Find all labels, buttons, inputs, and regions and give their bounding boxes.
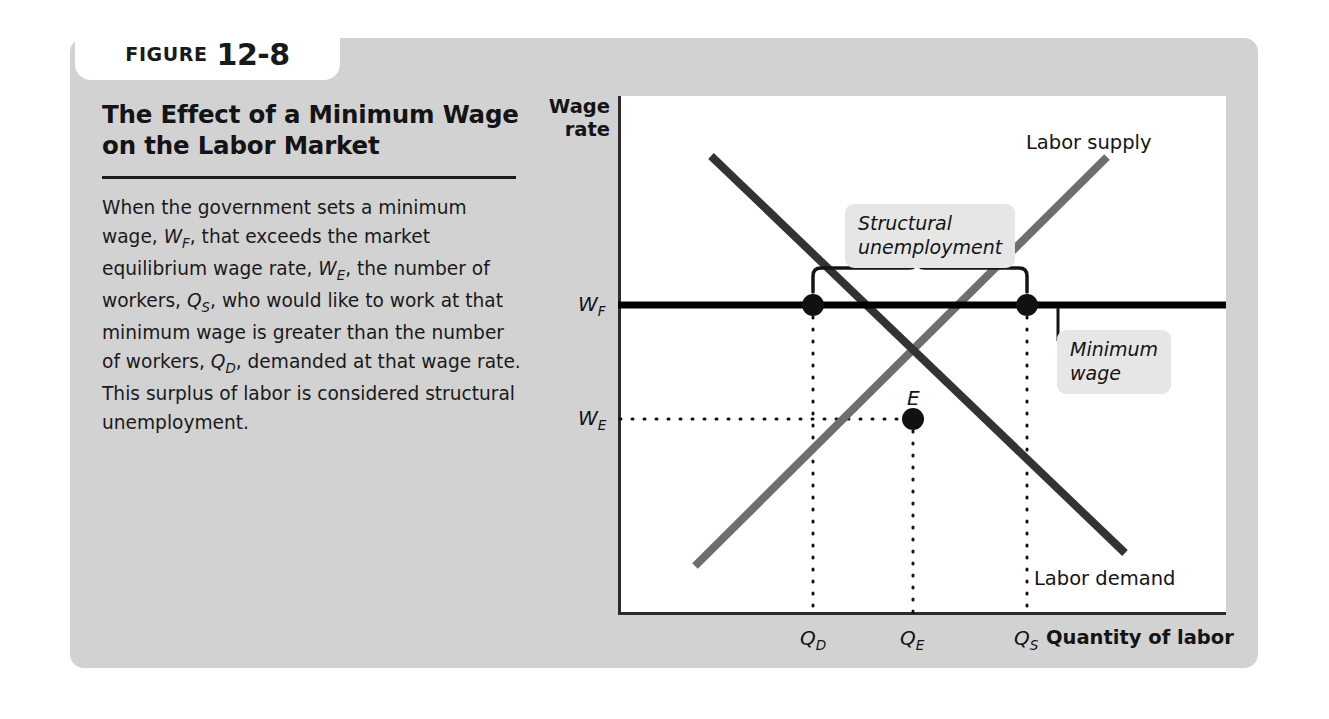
y-tick-label-we: WE — [578, 406, 606, 433]
caption-variable: QD — [211, 351, 236, 372]
caption-variable: WE — [318, 258, 345, 279]
x-tick-label-qe: QE — [900, 626, 924, 653]
figure-number: 12-8 — [217, 37, 290, 72]
marker-equilibrium-point — [902, 408, 924, 430]
marker-qd-point — [802, 294, 824, 316]
caption-variable: QS — [187, 290, 210, 311]
x-axis-title: Quantity of labor — [1046, 626, 1234, 649]
x-tick-label-qd: QD — [800, 626, 826, 653]
y-axis-title-line1: Wage — [549, 95, 610, 118]
title-divider — [102, 176, 516, 179]
y-tick-label-wf: WF — [578, 292, 606, 319]
x-tick-label-qs: QS — [1014, 626, 1038, 653]
caption-variable: WF — [164, 226, 190, 247]
labor-supply-label: Labor supply — [1026, 131, 1152, 154]
minimum-wage-callout: Minimum wage — [1057, 330, 1171, 394]
structural-unemployment-callout: Structural unemployment — [845, 204, 1015, 268]
y-axis-title-line2: rate — [565, 118, 610, 141]
figure-caption: When the government sets a minimum wage,… — [102, 193, 522, 438]
caption-column: The Effect of a Minimum Wage on the Labo… — [102, 100, 522, 456]
figure-kicker: FIGURE — [125, 43, 207, 65]
figure-title: The Effect of a Minimum Wage on the Labo… — [102, 100, 522, 162]
y-axis-title: Wage rate — [524, 95, 610, 142]
plot-wrapper: Labor supply Labor demand E Structural u… — [618, 96, 1226, 615]
figure-number-tab: FIGURE 12-8 — [75, 28, 340, 80]
equilibrium-point-label: E — [907, 386, 920, 410]
labor-demand-label: Labor demand — [1034, 567, 1175, 590]
marker-qs-point — [1016, 294, 1038, 316]
guide-lines — [620, 305, 1027, 614]
